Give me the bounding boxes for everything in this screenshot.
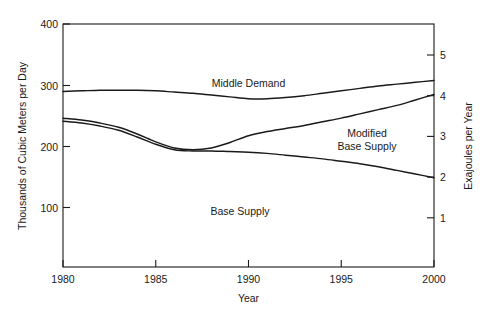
y2-tick-label: 2 bbox=[440, 171, 446, 183]
y-tick-label: 400 bbox=[40, 18, 58, 30]
y2-tick-label: 3 bbox=[440, 130, 446, 142]
y-axis-tick-labels-left: 400 300 200 100 bbox=[40, 18, 58, 214]
x-tick-label: 1995 bbox=[330, 273, 354, 285]
y-axis-title-left: Thousands of Cubic Meters per Day bbox=[16, 61, 28, 230]
y-tick-label: 100 bbox=[40, 202, 58, 214]
y2-tick-label: 5 bbox=[440, 49, 446, 61]
y-tick-label: 300 bbox=[40, 80, 58, 92]
line-chart: 400 300 200 100 Thousands of Cubic Meter… bbox=[0, 0, 493, 315]
x-tick-label: 2000 bbox=[422, 273, 446, 285]
y-axis-ticks-right bbox=[427, 55, 434, 218]
y-axis-title-right: Exajoules per Year bbox=[462, 102, 474, 190]
chart-figure: 400 300 200 100 Thousands of Cubic Meter… bbox=[0, 0, 493, 315]
series-label-modified-base-supply-line2: Base Supply bbox=[338, 140, 398, 152]
y-axis-tick-labels-right: 5 4 3 2 1 bbox=[440, 49, 446, 224]
series-label-base-supply: Base Supply bbox=[211, 205, 271, 217]
y-axis-ticks-left bbox=[63, 24, 70, 208]
x-axis-ticks bbox=[63, 260, 434, 267]
y-tick-label: 200 bbox=[40, 141, 58, 153]
x-axis-tick-labels: 1980 1985 1990 1995 2000 bbox=[51, 273, 446, 285]
series-label-middle-demand: Middle Demand bbox=[212, 77, 286, 89]
series-label-modified-base-supply-line1: Modified bbox=[347, 127, 387, 139]
x-tick-label: 1985 bbox=[144, 273, 168, 285]
x-tick-label: 1980 bbox=[51, 273, 75, 285]
y2-tick-label: 1 bbox=[440, 212, 446, 224]
x-tick-label: 1990 bbox=[237, 273, 261, 285]
x-axis-title: Year bbox=[238, 292, 260, 304]
y2-tick-label: 4 bbox=[440, 90, 446, 102]
